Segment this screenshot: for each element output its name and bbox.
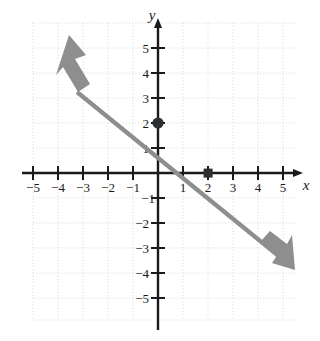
x-tick-label: 2: [205, 180, 212, 195]
line-arrow-upper-left-icon: [56, 35, 90, 92]
y-tick-label: 3: [143, 91, 150, 106]
x-tick-label: −5: [26, 180, 40, 195]
x-axis-arrow-icon: [293, 169, 303, 177]
x-tick-label: −3: [76, 180, 90, 195]
y-axis-label: y: [147, 7, 156, 23]
x-tick-label: −1: [126, 180, 140, 195]
y-tick-label: −3: [135, 241, 149, 256]
x-axis-tick-labels: −5 −4 −3 −2 −1 1 2 3 4 5: [26, 180, 286, 195]
y-tick-label: −2: [135, 216, 149, 231]
point-y-intercept: [152, 117, 163, 128]
coordinate-plane-figure: −5 −4 −3 −2 −1 1 2 3 4 5 5 4 3 2 1 −1 −2…: [0, 0, 320, 341]
line-arrow-lower-right-icon: [261, 231, 295, 270]
y-tick-label: 4: [143, 66, 150, 81]
y-tick-label: −5: [135, 291, 149, 306]
graph-canvas: −5 −4 −3 −2 −1 1 2 3 4 5 5 4 3 2 1 −1 −2…: [0, 0, 320, 341]
x-tick-label: 3: [230, 180, 237, 195]
y-tick-label: 2: [143, 116, 150, 131]
y-tick-label: −1: [141, 191, 155, 206]
x-tick-label: −4: [51, 180, 65, 195]
point-x-intercept: [204, 169, 213, 178]
plotted-line-series: [56, 35, 295, 270]
x-tick-label: −2: [101, 180, 115, 195]
x-tick-label: 5: [280, 180, 287, 195]
x-axis-label: x: [302, 177, 310, 193]
y-tick-label: 5: [143, 41, 150, 56]
x-tick-label: 4: [255, 180, 262, 195]
y-tick-label: −4: [135, 266, 149, 281]
